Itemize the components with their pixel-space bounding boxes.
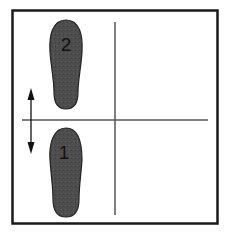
diagram-canvas: 2 1 (0, 0, 235, 232)
footprint-1: 1 (50, 128, 82, 217)
footprint-2: 2 (50, 20, 82, 109)
footprint-2-label: 2 (61, 34, 72, 55)
footprint-1-label: 1 (59, 142, 70, 163)
double-arrow-icon (28, 88, 35, 154)
